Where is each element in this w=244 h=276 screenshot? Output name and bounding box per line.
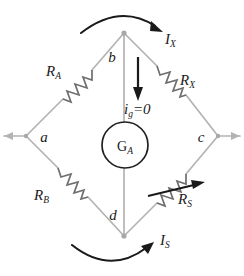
resistor-ra-icon [63,70,92,102]
resistor-label-rx-sub: X [188,80,196,90]
terminal-arrow-left-icon [4,132,13,140]
ix-current-arc [81,16,163,33]
is-arc-path [72,245,146,261]
resistor-label-ra: RA [45,63,61,81]
is-current-arc [72,242,154,261]
ix-arrowhead-icon [150,21,163,32]
ig-current-arrow [133,57,143,101]
node-label-c: c [198,129,205,145]
resistor-label-ra-main: R [45,63,55,79]
node-label-d: d [109,207,117,223]
wire-rb-to-d [88,197,124,236]
variable-resistor-arrow [148,180,205,196]
terminal-arrow-right-icon [231,132,240,140]
resistor-label-rs: RS [177,191,192,209]
ix-arc-path [81,16,155,33]
galvanometer-label-main: G [117,139,127,154]
resistor-label-rx: RX [179,72,196,90]
current-label-ix-sub: X [169,39,177,49]
ig-arrowhead-icon [133,87,143,101]
resistor-label-rb-main: R [33,187,43,203]
current-label-is-sub: S [165,240,170,250]
galvanometer-label-sub: A [126,146,133,156]
resistor-label-rx-main: R [179,72,189,88]
node-dot-d [121,233,126,238]
resistor-label-rs-main: R [177,191,187,207]
node-dot-a [24,134,28,138]
current-label-is: IS [159,232,170,250]
current-label-ig: ig=0 [124,101,151,119]
wire-d-to-rs [124,203,157,236]
resistor-rb-icon [58,168,88,199]
wheatstone-bridge-figure: b a c d GA RA RX RB RS IX IS [0,0,244,276]
resistor-label-rb-sub: B [43,195,49,205]
current-label-ix: IX [164,31,177,49]
resistor-label-rb: RB [33,187,49,205]
is-arrowhead-icon [141,242,154,254]
circuit-canvas: b a c d GA RA RX RB RS IX IS [0,0,244,276]
resistor-label-rs-sub: S [187,199,192,209]
rs-variable-arrow-shaft [148,184,198,196]
node-label-a: a [40,129,48,145]
current-label-ig-value: =0 [133,101,151,117]
wire-b-to-rx [124,33,157,66]
rs-variable-arrowhead-icon [191,180,205,189]
node-dot-c [216,134,220,138]
resistor-label-ra-sub: A [54,71,61,81]
node-label-b: b [108,49,116,65]
node-dot-b [121,30,126,35]
